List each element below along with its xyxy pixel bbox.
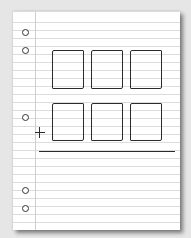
- digit-box: [130, 103, 162, 141]
- binder-hole: [22, 114, 29, 121]
- margin-line: [35, 11, 36, 230]
- digit-box: [91, 50, 123, 89]
- binder-hole: [22, 47, 29, 54]
- digit-box: [91, 103, 123, 141]
- digit-box: [52, 50, 84, 89]
- binder-hole: [22, 205, 29, 212]
- binder-hole: [22, 187, 29, 194]
- binder-hole: [22, 29, 29, 36]
- sum-rule: [39, 151, 175, 152]
- digit-box: [52, 103, 84, 141]
- digit-box: [130, 50, 162, 89]
